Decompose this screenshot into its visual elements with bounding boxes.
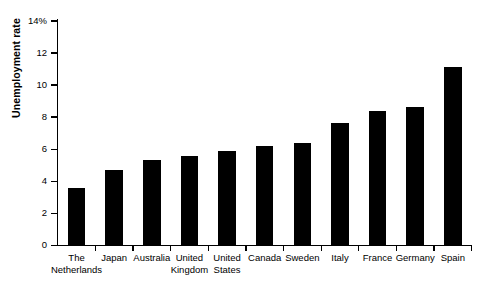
y-axis-tick (51, 84, 57, 85)
y-axis-tick (51, 116, 57, 117)
y-axis-tick (51, 149, 57, 150)
y-axis-tick (51, 213, 57, 214)
bar (369, 111, 387, 246)
x-axis-tick (283, 246, 284, 251)
x-axis-tick (132, 246, 133, 251)
y-axis-tick-label: 4 (0, 176, 47, 186)
x-axis-tick (245, 246, 246, 251)
x-axis-tick (208, 246, 209, 251)
bar (105, 170, 123, 245)
x-axis-tick (95, 246, 96, 251)
bar (181, 156, 199, 246)
bar (331, 123, 349, 245)
y-axis-tick (51, 20, 57, 21)
bar (294, 143, 312, 245)
category-label-line1: Spain (413, 252, 479, 264)
bar (406, 107, 424, 245)
x-axis-tick (358, 246, 359, 251)
x-axis-tick (170, 246, 171, 251)
category-label-line2: States (187, 264, 267, 276)
x-axis-tick (321, 246, 322, 251)
bar (143, 160, 161, 245)
y-axis-tick (51, 181, 57, 182)
x-axis-tick (396, 246, 397, 251)
y-axis-tick-label: 2 (0, 208, 47, 218)
x-axis-category-label: Spain (413, 252, 479, 264)
y-axis-tick-label: 12 (0, 48, 47, 58)
y-axis-title-label: Unemployment rate (10, 8, 22, 128)
y-axis-line (57, 19, 58, 246)
unemployment-rate-bar-chart: Unemployment rate 02468101214% TheNether… (0, 0, 479, 288)
category-label-line2: Netherlands (37, 264, 117, 276)
y-axis-tick-label: 8 (0, 112, 47, 122)
y-axis-tick-label: 6 (0, 144, 47, 154)
bar (444, 67, 462, 245)
bar (256, 146, 274, 245)
y-axis-tick (51, 245, 57, 246)
y-axis-tick (51, 52, 57, 53)
y-axis-tick-label: 0 (0, 240, 47, 250)
bar (218, 151, 236, 245)
y-axis-tick-label: 14% (0, 16, 47, 26)
x-axis-tick (471, 246, 472, 251)
x-axis-tick (433, 246, 434, 251)
bar (68, 188, 86, 246)
y-axis-tick-label: 10 (0, 80, 47, 90)
